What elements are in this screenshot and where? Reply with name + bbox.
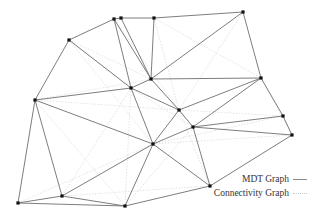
- solid-line-swatch-icon: [293, 179, 307, 180]
- connectivity-edge: [154, 18, 261, 78]
- graph-node: [290, 133, 293, 136]
- graph-node: [129, 86, 132, 89]
- mdt-edge: [151, 18, 154, 79]
- connectivity-edge: [179, 110, 283, 116]
- mdt-edge: [179, 78, 261, 110]
- mdt-edge: [18, 196, 62, 203]
- connectivity-edge: [153, 116, 283, 144]
- connectivity-edge: [18, 144, 153, 203]
- mdt-edge: [179, 110, 193, 127]
- connectivity-edge: [179, 12, 243, 110]
- graph-node: [33, 98, 36, 101]
- graph-node: [151, 142, 154, 145]
- mdt-edge: [62, 144, 153, 196]
- mdt-edge: [153, 144, 210, 186]
- graph-node: [112, 17, 115, 20]
- mdt-edge: [35, 88, 131, 100]
- mdt-edge: [69, 19, 114, 40]
- legend-label-connectivity: Connectivity Graph: [214, 186, 289, 200]
- graph-node: [123, 204, 126, 207]
- mdt-edge: [35, 40, 69, 100]
- legend-label-mdt: MDT Graph: [242, 172, 289, 186]
- mdt-edge: [114, 19, 131, 88]
- graph-node: [152, 16, 155, 19]
- mdt-edge: [121, 18, 151, 79]
- mdt-edge: [125, 144, 153, 206]
- mdt-edge: [193, 127, 292, 135]
- graph-node: [191, 125, 194, 128]
- graph-node: [60, 194, 63, 197]
- mdt-edge: [151, 78, 261, 79]
- connectivity-edge: [114, 19, 179, 110]
- graph-node: [241, 10, 244, 13]
- dotted-line-swatch-icon: [293, 193, 307, 194]
- mdt-edge: [131, 79, 151, 88]
- mdt-edge: [35, 100, 62, 196]
- graph-node: [177, 108, 180, 111]
- legend: MDT Graph Connectivity Graph: [214, 172, 307, 200]
- graph-node: [281, 114, 284, 117]
- graph-node: [259, 76, 262, 79]
- graph-node: [149, 77, 152, 80]
- graph-node: [208, 184, 211, 187]
- mdt-edge: [243, 12, 261, 78]
- mdt-edge: [18, 100, 35, 203]
- legend-item-mdt: MDT Graph: [214, 172, 307, 186]
- mdt-edge: [283, 116, 292, 135]
- graph-node: [67, 38, 70, 41]
- mdt-edge: [154, 12, 243, 18]
- graph-node: [119, 16, 122, 19]
- mdt-edge: [151, 12, 243, 79]
- mdt-edge: [69, 40, 131, 88]
- connectivity-edge: [125, 88, 131, 206]
- mdt-edge: [193, 127, 210, 186]
- mdt-edge: [261, 78, 283, 116]
- legend-item-connectivity: Connectivity Graph: [214, 186, 307, 200]
- graph-node: [16, 201, 19, 204]
